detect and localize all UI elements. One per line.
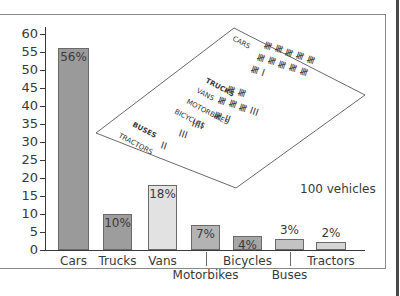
category-label-buses: Buses xyxy=(250,268,330,282)
x-axis xyxy=(45,250,365,251)
y-tick-mark xyxy=(40,250,45,251)
y-tick-mark xyxy=(40,160,45,161)
y-tick-label: 20 xyxy=(8,171,38,184)
y-tick-label: 10 xyxy=(8,207,38,220)
y-tick-label: 25 xyxy=(8,153,38,166)
y-tick-mark xyxy=(40,214,45,215)
y-tick-label: 55 xyxy=(8,45,38,58)
y-tick-mark xyxy=(40,232,45,233)
y-axis xyxy=(45,27,46,251)
y-tick-label: 35 xyxy=(8,117,38,130)
category-leader-line xyxy=(206,252,207,266)
bar-cars xyxy=(58,48,89,250)
bar-value-label: 56% xyxy=(58,50,89,64)
bar-chart: 051015202530354045505560 56%Cars10%Truck… xyxy=(0,0,400,296)
y-tick-label: 40 xyxy=(8,99,38,112)
bar-value-label: 10% xyxy=(103,216,132,230)
category-label-tractors: Tractors xyxy=(291,254,371,268)
y-tick-label: 30 xyxy=(8,135,38,148)
bar-buses xyxy=(275,239,304,250)
y-tick-mark xyxy=(40,142,45,143)
category-label-vans: Vans xyxy=(123,254,203,268)
y-tick-mark xyxy=(40,34,45,35)
bar-value-label: 7% xyxy=(191,227,220,241)
y-tick-label: 60 xyxy=(8,27,38,40)
category-label-motorbikes: Motorbikes xyxy=(166,268,246,282)
bar-tractors xyxy=(316,242,346,250)
y-tick-mark xyxy=(40,178,45,179)
y-tick-label: 45 xyxy=(8,81,38,94)
y-tick-mark xyxy=(40,52,45,53)
bar-value-label: 2% xyxy=(316,226,346,240)
bar-value-label: 3% xyxy=(275,223,304,237)
y-tick-label: 50 xyxy=(8,63,38,76)
y-tick-mark xyxy=(40,88,45,89)
y-tick-mark xyxy=(40,106,45,107)
total-annotation: 100 vehicles xyxy=(300,182,376,196)
y-tick-label: 5 xyxy=(8,225,38,238)
y-tick-mark xyxy=(40,70,45,71)
category-label-bicycles: Bicycles xyxy=(208,254,288,268)
y-tick-label: 15 xyxy=(8,189,38,202)
y-tick-mark xyxy=(40,196,45,197)
bar-value-label: 4% xyxy=(233,238,262,252)
bar-value-label: 18% xyxy=(148,187,177,201)
y-tick-mark xyxy=(40,124,45,125)
